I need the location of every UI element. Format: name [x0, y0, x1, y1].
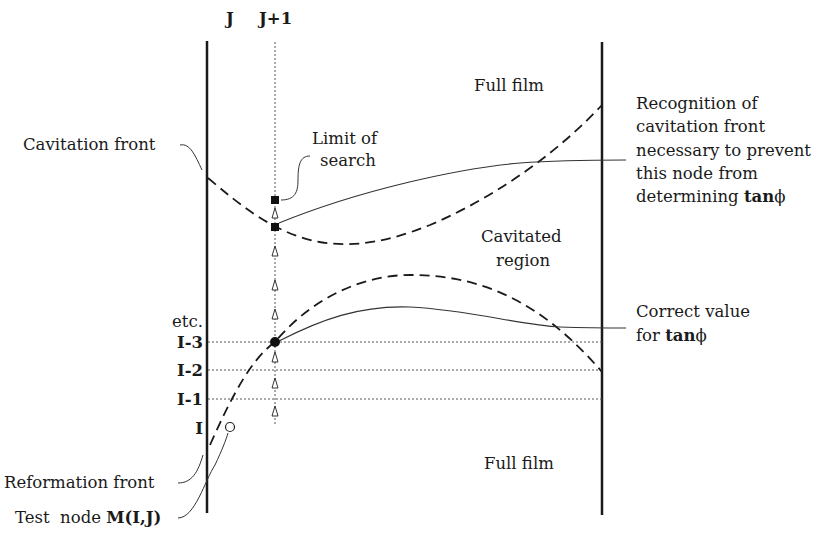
arrow-icon — [272, 378, 278, 388]
row-label-i-minus-2: I-2 — [177, 360, 203, 381]
row-label-i: I — [195, 418, 203, 439]
row-label-i-minus-3: I-3 — [177, 332, 203, 353]
correct-value-leader — [279, 307, 626, 341]
recognition-line4: this node from — [636, 163, 758, 184]
cavitation-front-label: Cavitation front — [23, 134, 155, 155]
limit-of-search-marker — [271, 196, 279, 204]
recognition-line5: determining tanϕ — [636, 186, 785, 207]
phi-symbol: ϕ — [696, 326, 707, 345]
arrow-icon — [272, 208, 278, 218]
test-node-leader — [178, 433, 228, 518]
arrow-icon — [272, 246, 278, 256]
phi-symbol: ϕ — [774, 187, 785, 206]
row-label-etc: etc. — [172, 311, 203, 332]
correct-value-line1: Correct value — [636, 301, 750, 322]
full-film-top-label: Full film — [474, 75, 544, 96]
cavitated-label-line1: Cavitated — [481, 226, 562, 247]
reformation-front-label: Reformation front — [4, 472, 155, 493]
reformation-front-leader — [178, 455, 203, 483]
arrow-icon — [272, 406, 278, 416]
arrow-icon — [272, 280, 278, 290]
recognition-line1: Recognition of — [636, 93, 758, 114]
correct-node-marker — [270, 337, 280, 347]
test-node-marker — [226, 423, 235, 432]
diagram-graphics — [0, 0, 836, 549]
cavitation-search-diagram: J J+1 etc. I-3 I-2 I-1 I Full film Cavit… — [0, 0, 836, 549]
recognition-line3: necessary to prevent — [636, 140, 811, 161]
arrow-icon — [272, 309, 278, 319]
test-node-label: Test node M(I,J) — [15, 507, 161, 528]
cavitation-front-leader — [180, 145, 202, 170]
limit-of-search-line2: search — [320, 150, 376, 171]
arrow-icon — [272, 352, 278, 362]
limit-of-search-line1: Limit of — [312, 128, 377, 149]
column-label-j: J — [226, 8, 234, 29]
correct-value-line2: for tanϕ — [636, 325, 707, 346]
recognition-line2: cavitation front — [636, 116, 765, 137]
column-label-j-plus-1: J+1 — [259, 8, 292, 29]
limit-of-search-leader — [281, 156, 310, 200]
cavitation-hit-marker — [271, 223, 279, 231]
cavitation-front-curve — [208, 105, 602, 244]
full-film-bottom-label: Full film — [484, 453, 554, 474]
reformation-front-curve — [210, 275, 602, 445]
cavitated-label-line2: region — [496, 250, 550, 271]
row-label-i-minus-1: I-1 — [177, 389, 203, 410]
